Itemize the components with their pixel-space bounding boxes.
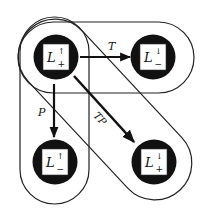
node-sub: + bbox=[156, 164, 164, 174]
edge-TP: TP bbox=[74, 76, 134, 142]
node-top-right: L ↓ − bbox=[131, 35, 176, 80]
node-sup: ↓ bbox=[155, 47, 162, 56]
edge-label-T: T bbox=[108, 40, 117, 53]
node-base: L bbox=[143, 50, 153, 65]
lorentz-group-diagram: T P TP L ↑ + L ↓ − L ↑ − L ↓ + bbox=[0, 0, 206, 218]
node-sub: − bbox=[155, 59, 163, 69]
node-sub: + bbox=[58, 59, 66, 69]
edge-label-P: P bbox=[37, 106, 46, 119]
node-top-left: L ↑ + bbox=[34, 35, 79, 80]
node-sup: ↑ bbox=[58, 47, 65, 56]
node-bottom-right: L ↓ + bbox=[132, 140, 177, 185]
node-base: L bbox=[46, 50, 56, 65]
node-bottom-left: L ↑ − bbox=[33, 140, 78, 185]
node-sub: − bbox=[57, 164, 65, 174]
node-sup: ↑ bbox=[57, 152, 64, 161]
node-base: L bbox=[144, 155, 154, 170]
node-sup: ↓ bbox=[156, 152, 163, 161]
node-base: L bbox=[45, 155, 55, 170]
